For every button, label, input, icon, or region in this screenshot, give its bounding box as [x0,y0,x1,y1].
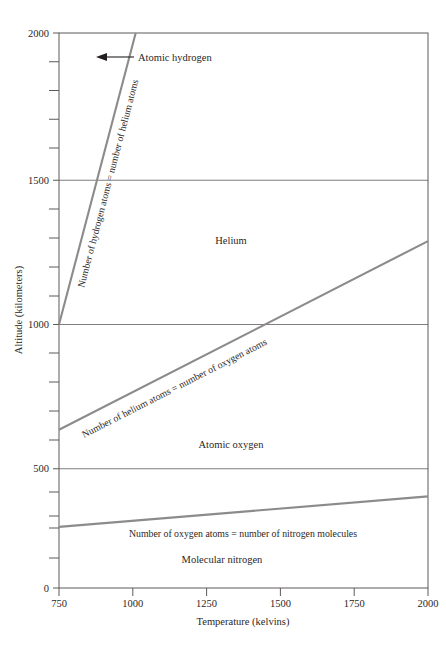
x-axis-title: Temperature (kelvins) [197,616,290,628]
y-tick-label-2000: 2000 [28,28,49,39]
x-axis-ticks [59,588,428,596]
annotation-arrow-head-icon [96,53,107,61]
chart-figure: 2000 1500 1000 500 0 750 1000 1250 1500 … [0,0,446,648]
line-hydrogen-helium-boundary [59,33,136,325]
y-axis-major-ticks [53,33,59,588]
y-axis-tick-labels: 2000 1500 1000 500 0 [28,28,49,594]
y-axis-title: Altitude (kilometers) [13,265,25,354]
curve-label-oxygen-nitrogen: Number of oxygen atoms = number of nitro… [129,528,357,539]
y-tick-label-500: 500 [33,463,49,474]
x-tick-label-750: 750 [51,598,67,609]
line-helium-oxygen-boundary [59,241,428,430]
line-oxygen-nitrogen-boundary [59,496,428,527]
gridlines [59,180,428,469]
data-lines [59,33,428,527]
x-tick-label-2000: 2000 [418,598,439,609]
chart-svg: 2000 1500 1000 500 0 750 1000 1250 1500 … [0,0,446,648]
region-label-atomic-oxygen: Atomic oxygen [198,439,264,450]
x-tick-label-1500: 1500 [270,598,291,609]
annotation-atomic-hydrogen: Atomic hydrogen [96,52,213,63]
x-axis-tick-labels: 750 1000 1250 1500 1750 2000 [51,598,438,609]
y-tick-label-0: 0 [44,583,49,594]
y-tick-label-1000: 1000 [28,319,49,330]
y-tick-label-1500: 1500 [28,175,49,186]
x-tick-label-1250: 1250 [196,598,217,609]
x-tick-label-1000: 1000 [122,598,143,609]
annotation-label-atomic-hydrogen: Atomic hydrogen [138,52,213,63]
x-tick-label-1750: 1750 [344,598,365,609]
curve-label-hydrogen-helium: Number of hydrogen atoms = number of hel… [75,78,140,288]
y-axis-minor-ticks [49,62,59,558]
region-label-molecular-nitrogen: Molecular nitrogen [182,554,264,565]
curve-label-helium-oxygen: Number of helium atoms = number of oxyge… [80,336,269,440]
region-label-helium: Helium [215,235,247,246]
